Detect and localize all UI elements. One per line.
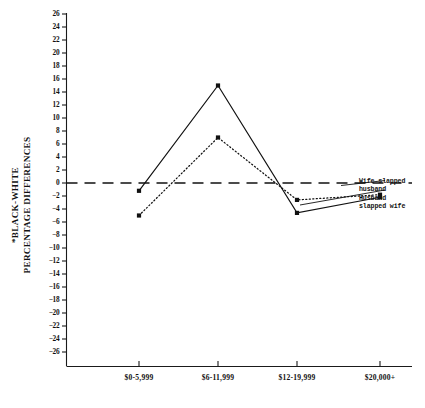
y-tick-label: 12 [53, 100, 60, 109]
y-tick-label: −18 [49, 295, 60, 304]
y-tick-label: −20 [49, 308, 60, 317]
data-point-0-2 [295, 198, 299, 202]
y-tick-label: −14 [49, 269, 60, 278]
y-tick-label: −26 [49, 347, 60, 356]
y-tick-label: 4 [56, 152, 60, 161]
chart-container: *BLACK-WHITE PERCENTAGE DIFFERENCES 2624… [0, 0, 425, 408]
y-tick-label: −8 [52, 230, 60, 239]
data-point-0-1 [216, 135, 220, 139]
y-tick-label: −24 [49, 334, 60, 343]
x-axis-ticks: $0-5,999$6-11,999$12-19,999$20,000+ [125, 361, 396, 382]
y-axis-title-line1: *BLACK-WHITE [10, 167, 20, 243]
y-tick-label: 2 [56, 165, 60, 174]
y-tick-label: −6 [52, 217, 60, 226]
y-tick-label: 26 [53, 9, 60, 18]
legend-entry-0-line2: husband [359, 186, 386, 193]
y-axis-title: *BLACK-WHITE PERCENTAGE DIFFERENCES [10, 137, 32, 274]
y-tick-label: 10 [53, 113, 60, 122]
y-tick-label: −10 [49, 243, 60, 252]
data-series-layer [137, 83, 382, 217]
y-tick-label: −16 [49, 282, 60, 291]
legend-entry-0-line1: Wife slapped [359, 178, 405, 185]
y-tick-label: 18 [53, 61, 60, 70]
y-tick-label: 14 [53, 87, 60, 96]
y-axis-title-line2: PERCENTAGE DIFFERENCES [22, 137, 32, 274]
x-tick-label: $0-5,999 [125, 373, 154, 382]
y-tick-label: 8 [56, 126, 60, 135]
data-point-1-1 [216, 83, 220, 87]
x-tick-label: $12-19,999 [279, 373, 316, 382]
y-tick-label: 6 [56, 139, 60, 148]
legend: Wife slapped husband Husband slapped wif… [300, 178, 405, 210]
x-tick-label: $6-11,999 [202, 373, 234, 382]
y-tick-label: −22 [49, 321, 60, 330]
y-tick-label: 16 [53, 74, 60, 83]
series-line-1 [139, 86, 380, 213]
y-tick-label: 20 [53, 48, 60, 57]
legend-entry-1-line2: slapped wife [359, 203, 405, 210]
y-tick-label: 24 [53, 22, 60, 31]
y-tick-label: −2 [52, 191, 60, 200]
data-point-1-0 [137, 189, 141, 193]
y-tick-label: −12 [49, 256, 60, 265]
black-white-percentage-differences-line-chart: *BLACK-WHITE PERCENTAGE DIFFERENCES 2624… [0, 0, 425, 408]
y-tick-label: 22 [53, 35, 60, 44]
legend-entry-1-line1: Husband [359, 195, 386, 202]
y-tick-label: −4 [52, 204, 60, 213]
data-point-0-0 [137, 213, 141, 217]
y-tick-label: 0 [56, 178, 60, 187]
x-tick-label: $20,000+ [365, 373, 396, 382]
data-point-1-2 [295, 211, 299, 215]
y-axis-ticks: 26242220181614121086420−2−4−6−8−10−12−14… [49, 9, 67, 356]
